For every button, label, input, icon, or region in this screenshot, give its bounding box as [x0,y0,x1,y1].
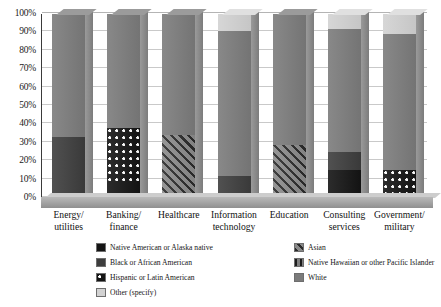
chart-legend: Native American or Alaska nativeBlack or… [96,243,436,305]
bar-segment-asian [273,145,306,198]
legend-swatch-white-icon [294,273,304,282]
x-label-line1: Education [270,209,309,220]
bar-front-face [383,14,416,198]
bar-side-face [306,12,314,198]
legend-label-asian: Asian [308,244,326,252]
x-label-line2: finance [90,221,157,233]
legend-item-native[interactable]: Native American or Alaska native [96,243,213,252]
bar-side-face [416,12,424,198]
x-label-line1: Consulting [323,209,365,220]
legend-swatch-asian-icon [294,243,304,252]
y-tick-label-0: 0% [0,193,36,203]
y-tick-label-100: 100% [0,9,36,19]
segment-sheen [273,14,306,145]
segment-sheen [162,14,195,135]
bar-segment-white [162,14,195,135]
x-label-line1: Healthcare [158,209,200,220]
legend-label-native: Native American or Alaska native [110,244,213,252]
x-label-line1: Government/ [374,209,425,220]
bar-4 [218,14,251,198]
x-label-line2: technology [200,221,267,233]
bar-3 [162,14,195,198]
bar-segment-other [328,14,361,29]
legend-item-other[interactable]: Other (specify) [96,288,156,297]
bar-segment-black [328,152,361,170]
segment-sheen [52,137,85,198]
legend-label-white: White [308,274,327,282]
bar-segment-white [218,31,251,176]
legend-label-black: Black or African American [110,259,192,267]
segment-sheen [383,14,416,34]
segment-sheen [107,128,140,183]
bar-segment-other [383,14,416,34]
bars-layer [41,14,427,198]
legend-swatch-hawaiian-icon [294,258,304,267]
bar-segment-white [383,34,416,170]
bar-segment-hispanic [107,128,140,183]
bar-front-face [162,14,195,198]
y-tick-label-70: 70% [0,64,36,74]
legend-item-hawaiian[interactable]: Native Hawaiian or other Pacific Islande… [294,258,434,267]
x-label-line1: Information [211,209,257,220]
bar-front-face [328,14,361,198]
bar-segment-asian [162,135,195,198]
bar-segment-white [328,29,361,152]
x-label-7: Government/military [366,209,433,232]
bar-front-face [107,14,140,198]
bar-segment-black [52,137,85,198]
segment-sheen [328,152,361,170]
legend-swatch-hispanic-icon [96,273,106,282]
bar-7 [383,14,416,198]
bar-front-face [218,14,251,198]
y-tick-label-30: 30% [0,138,36,148]
y-tick-label-10: 10% [0,175,36,185]
y-tick-label-60: 60% [0,83,36,93]
floor-front-face [41,197,433,208]
y-tick-label-80: 80% [0,46,36,56]
bar-5 [273,14,306,198]
y-tick-label-20: 20% [0,156,36,166]
y-tick-label-50: 50% [0,101,36,111]
segment-sheen [107,14,140,128]
legend-item-black[interactable]: Black or African American [96,258,192,267]
x-label-line2: military [366,221,433,233]
bar-segment-other [218,14,251,31]
legend-item-white[interactable]: White [294,273,327,282]
segment-sheen [273,145,306,198]
legend-label-hawaiian: Native Hawaiian or other Pacific Islande… [308,259,434,267]
legend-swatch-native-icon [96,243,106,252]
x-label-line1: Banking/ [106,209,141,220]
legend-swatch-other-icon [96,288,106,297]
bar-side-face [251,12,259,198]
legend-label-other: Other (specify) [110,289,156,297]
legend-item-asian[interactable]: Asian [294,243,326,252]
segment-sheen [218,14,251,31]
bar-segment-white [273,14,306,145]
bar-segment-white [52,14,85,137]
segment-sheen [162,135,195,198]
legend-item-hispanic[interactable]: Hispanic or Latin American [96,273,195,282]
segment-sheen [383,34,416,170]
y-tick-label-40: 40% [0,119,36,129]
bar-side-face [195,12,203,198]
x-axis-labels: Energy/utilitiesBanking/financeHealthcar… [41,209,433,239]
segment-sheen [52,14,85,137]
segment-sheen [218,31,251,176]
bar-front-face [273,14,306,198]
x-label-line1: Energy/ [53,209,83,220]
bar-top-face [222,9,263,15]
bar-1 [52,14,85,198]
legend-swatch-black-icon [96,258,106,267]
bar-side-face [361,12,369,198]
bar-segment-white [107,14,140,128]
bar-side-face [85,12,93,198]
bar-6 [328,14,361,198]
bar-side-face [140,12,148,198]
legend-label-hispanic: Hispanic or Latin American [110,274,195,282]
segment-sheen [328,29,361,152]
bar-2 [107,14,140,198]
segment-sheen [328,14,361,29]
bar-front-face [52,14,85,198]
y-tick-label-90: 90% [0,27,36,37]
